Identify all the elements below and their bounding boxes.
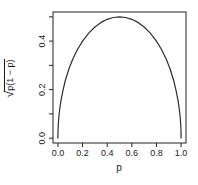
x-tick-label: 0.6 [126,148,139,158]
sqrt-p-1-minus-p-plot: p 0.00.20.40.60.81.00.00.20.4 √p(1 − p) [0,0,198,185]
plot-area: p 0.00.20.40.60.81.00.00.20.4 [0,0,198,185]
x-tick-label: 0.8 [150,148,163,158]
curve-line [58,17,181,138]
y-axis-label: √p(1 − p) [4,43,18,113]
y-tick-label: 0.2 [37,83,47,96]
x-tick-label: 0.4 [101,148,114,158]
x-tick-label: 0.0 [52,148,65,158]
x-tick-label: 1.0 [175,148,188,158]
x-axis-label: p [116,162,122,173]
y-tick-label: 0.4 [37,35,47,48]
y-axis-label-radicand: p(1 − p) [4,59,16,92]
x-tick-label: 0.2 [76,148,89,158]
plot-box [53,12,186,143]
y-tick-label: 0.0 [37,132,47,145]
